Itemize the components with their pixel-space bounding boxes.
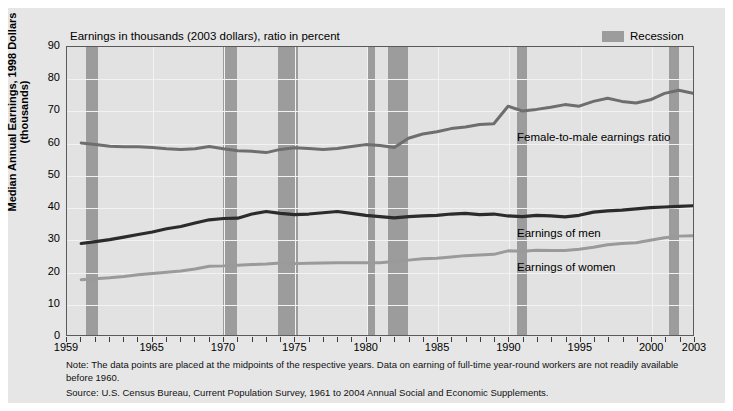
legend-label-recession: Recession (630, 30, 684, 42)
x-tick-mark (95, 337, 96, 342)
series-label: Earnings of women (517, 261, 615, 273)
x-tick-mark (566, 337, 567, 342)
chart-top-title: Earnings in thousands (2003 dollars), ra… (70, 30, 340, 42)
x-tick-mark (537, 337, 538, 342)
x-tick-label: 2003 (682, 341, 706, 353)
y-tick-label: 40 (34, 201, 60, 212)
chart-source: Source: U.S. Census Bureau, Current Popu… (66, 386, 706, 399)
series-label: Earnings of men (517, 227, 601, 239)
x-tick-mark (280, 337, 281, 342)
x-tick-label: 1959 (54, 341, 78, 353)
x-tick-mark (451, 337, 452, 342)
x-tick-label: 2000 (639, 341, 663, 353)
x-tick-mark (166, 337, 167, 342)
x-tick-mark (109, 337, 110, 342)
x-tick-label: 1985 (425, 341, 449, 353)
y-tick-label: 80 (34, 72, 60, 83)
x-tick-mark (466, 337, 467, 342)
y-tick-label: 50 (34, 169, 60, 180)
y-tick-label: 0 (34, 330, 60, 341)
series-label: Female-to-male earnings ratio (517, 131, 670, 143)
x-tick-mark (337, 337, 338, 342)
x-tick-mark (680, 337, 681, 342)
x-tick-mark (237, 337, 238, 342)
x-tick-label: 1965 (139, 341, 163, 353)
x-tick-mark (323, 337, 324, 342)
x-tick-mark (194, 337, 195, 342)
x-tick-mark (665, 337, 666, 342)
y-tick-label: 10 (34, 298, 60, 309)
x-tick-mark (523, 337, 524, 342)
plot-area: Female-to-male earnings ratioEarnings of… (66, 46, 694, 336)
y-tick-label: 20 (34, 266, 60, 277)
series-line (81, 90, 693, 152)
x-tick-mark (266, 337, 267, 342)
x-tick-label: 1980 (353, 341, 377, 353)
x-tick-mark (608, 337, 609, 342)
y-tick-label: 70 (34, 104, 60, 115)
x-tick-label: 1975 (282, 341, 306, 353)
figure-canvas: Earnings in thousands (2003 dollars), ra… (8, 8, 725, 403)
legend: Recession (602, 30, 684, 42)
series-line (81, 236, 693, 280)
x-tick-mark (209, 337, 210, 342)
x-tick-mark (123, 337, 124, 342)
y-tick-label: 90 (34, 40, 60, 51)
x-tick-mark (252, 337, 253, 342)
chart-note: Note: The data points are placed at the … (66, 358, 706, 384)
x-tick-label: 1990 (496, 341, 520, 353)
y-tick-label: 60 (34, 137, 60, 148)
x-tick-mark (80, 337, 81, 342)
x-tick-mark (351, 337, 352, 342)
x-tick-mark (637, 337, 638, 342)
x-tick-mark (423, 337, 424, 342)
x-tick-label: 1970 (211, 341, 235, 353)
x-tick-mark (494, 337, 495, 342)
x-tick-mark (380, 337, 381, 342)
x-tick-mark (594, 337, 595, 342)
series-lines (67, 47, 693, 335)
x-tick-mark (180, 337, 181, 342)
x-tick-label: 1995 (568, 341, 592, 353)
x-tick-mark (137, 337, 138, 342)
series-line (81, 206, 693, 244)
x-tick-mark (623, 337, 624, 342)
x-tick-mark (480, 337, 481, 342)
x-tick-mark (309, 337, 310, 342)
recession-swatch-icon (602, 31, 624, 42)
y-axis-label: Median Annual Earnings, 1998 Dollars (th… (6, 0, 30, 232)
x-tick-mark (409, 337, 410, 342)
x-tick-mark (551, 337, 552, 342)
y-tick-label: 30 (34, 233, 60, 244)
x-tick-mark (394, 337, 395, 342)
